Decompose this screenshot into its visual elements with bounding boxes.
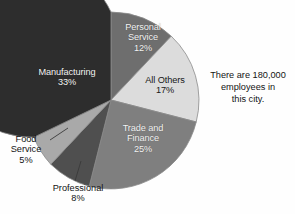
chart-caption: There are 180,000 employees in this city… — [205, 69, 291, 105]
pie-chart-figure: Personal Service 12% All Others 17% Trad… — [0, 0, 295, 214]
caption-line1: There are 180,000 — [205, 69, 291, 81]
caption-line3: this city. — [205, 93, 291, 105]
pie-chart-graphic — [0, 0, 295, 214]
caption-line2: employees in — [205, 81, 291, 93]
